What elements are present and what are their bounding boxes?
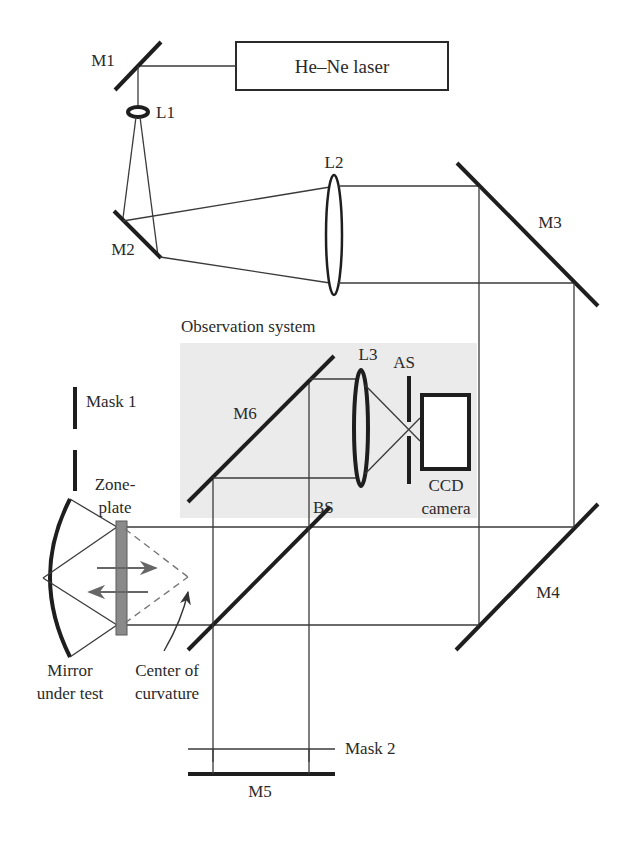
- mirror-m4: [456, 504, 598, 650]
- m6-label: M6: [233, 404, 257, 423]
- observation-system-label: Observation system: [181, 317, 316, 336]
- l3-label: L3: [359, 345, 378, 364]
- ccd-label-line2: camera: [421, 499, 471, 518]
- mirror-under-test: [50, 499, 70, 657]
- ccd-camera: [422, 395, 469, 469]
- optical-setup-diagram: He–Ne laser M1 L1 M2 L2 M3 M4 BS M6 L: [0, 0, 628, 842]
- mut-label-line2: under test: [37, 684, 104, 703]
- lens-l1: [128, 107, 148, 117]
- beam-m2-l2-bottom: [160, 257, 330, 283]
- dashed-to-coc-top: [125, 529, 188, 577]
- mask1-label: Mask 1: [86, 392, 137, 411]
- beam-l1-m2-b: [140, 117, 158, 256]
- dashed-to-coc-bottom: [125, 577, 188, 623]
- mask2-label: Mask 2: [345, 739, 396, 758]
- lens-l2: [326, 175, 342, 295]
- zone-plate: [116, 521, 127, 635]
- coc-label-line1: Center of: [135, 661, 199, 680]
- zone-plate-label-line1: Zone-: [95, 475, 136, 494]
- m2-label: M2: [111, 240, 135, 259]
- m4-label: M4: [536, 583, 560, 602]
- zone-plate-label-line2: plate: [98, 498, 131, 517]
- ray-mut-bottom: [70, 625, 117, 657]
- center-of-curvature-pointer-icon: [164, 592, 188, 651]
- m1-label: M1: [91, 51, 115, 70]
- beam-l1-m2-a: [123, 117, 136, 218]
- ccd-label-line1: CCD: [429, 476, 464, 495]
- l1-label: L1: [156, 103, 175, 122]
- coc-label-line2: curvature: [135, 684, 199, 703]
- mut-label-line1: Mirror: [47, 661, 93, 680]
- bs-label: BS: [313, 498, 334, 517]
- m5-label: M5: [248, 782, 272, 801]
- m3-label: M3: [538, 213, 562, 232]
- laser-label: He–Ne laser: [295, 56, 390, 77]
- as-label: AS: [393, 353, 415, 372]
- beam-m2-l2-top: [123, 187, 330, 221]
- mirror-m3: [457, 163, 598, 306]
- l2-label: L2: [325, 153, 344, 172]
